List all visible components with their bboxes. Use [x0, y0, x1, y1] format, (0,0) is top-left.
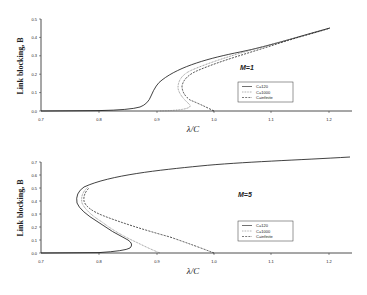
svg-text:0.2: 0.2 [31, 72, 37, 77]
bottom-legend-c120: C=120 [256, 223, 269, 228]
figure: 0.0 0.1 0.2 0.3 0.4 0.5 0.7 0.8 0.9 1.0 … [0, 0, 367, 295]
bottom-x-tick-labels: 0.7 0.8 0.9 1.0 1.1 1.2 [38, 259, 332, 264]
top-x-tick-labels: 0.7 0.8 0.9 1.0 1.1 1.2 [38, 117, 332, 122]
svg-text:0.5: 0.5 [31, 186, 37, 191]
svg-text:0.7: 0.7 [38, 117, 44, 122]
bottom-series-c1000 [82, 187, 160, 253]
svg-text:0.2: 0.2 [31, 225, 37, 230]
top-x-axis-label: λ/C [186, 124, 200, 134]
top-annotation: M=1 [240, 64, 254, 71]
svg-text:0.3: 0.3 [31, 53, 37, 58]
svg-text:0.0: 0.0 [31, 251, 37, 256]
svg-text:1.1: 1.1 [268, 259, 274, 264]
bottom-series-c120 [41, 157, 350, 253]
svg-text:1.1: 1.1 [268, 117, 274, 122]
bottom-annotation: M=5 [238, 191, 252, 198]
svg-text:0.7: 0.7 [38, 259, 44, 264]
bottom-legend-cinf: C=infinite [256, 234, 274, 239]
svg-text:1.2: 1.2 [326, 259, 332, 264]
svg-text:1.0: 1.0 [211, 117, 217, 122]
bottom-x-axis-label: λ/C [186, 266, 200, 276]
svg-text:0.3: 0.3 [31, 212, 37, 217]
svg-text:0.9: 0.9 [154, 117, 160, 122]
svg-text:0.8: 0.8 [96, 117, 102, 122]
svg-text:0.4: 0.4 [31, 199, 37, 204]
svg-text:0.8: 0.8 [96, 259, 102, 264]
svg-text:0.4: 0.4 [31, 35, 37, 40]
svg-text:0.5: 0.5 [31, 17, 37, 22]
svg-text:0.7: 0.7 [31, 160, 37, 165]
svg-text:1.2: 1.2 [326, 117, 332, 122]
top-y-axis-label: Link blocking, B [16, 37, 25, 95]
svg-text:0.6: 0.6 [31, 173, 37, 178]
svg-text:0.9: 0.9 [154, 259, 160, 264]
top-y-tick-labels: 0.0 0.1 0.2 0.3 0.4 0.5 [31, 17, 37, 114]
bottom-y-tick-labels: 0.0 0.1 0.2 0.3 0.4 0.5 0.6 0.7 [31, 160, 37, 256]
svg-text:0.1: 0.1 [31, 238, 37, 243]
bottom-plot: 0.0 0.1 0.2 0.3 0.4 0.5 0.6 0.7 0.7 0.8 … [16, 157, 352, 276]
bottom-legend: C=120 C=1000 C=infinite [238, 221, 293, 241]
bottom-y-axis-label: Link blocking, B [16, 179, 25, 237]
top-legend: C=120 C=1000 C=infinite [238, 82, 293, 102]
svg-text:0.1: 0.1 [31, 90, 37, 95]
svg-text:0.0: 0.0 [31, 109, 37, 114]
top-plot: 0.0 0.1 0.2 0.3 0.4 0.5 0.7 0.8 0.9 1.0 … [16, 17, 352, 135]
top-legend-c120: C=120 [256, 84, 269, 89]
top-legend-cinf: C=infinite [256, 95, 274, 100]
bottom-series-cinf [84, 188, 214, 253]
svg-text:1.0: 1.0 [211, 259, 217, 264]
top-legend-c1000: C=1000 [256, 90, 271, 95]
bottom-legend-c1000: C=1000 [256, 229, 271, 234]
